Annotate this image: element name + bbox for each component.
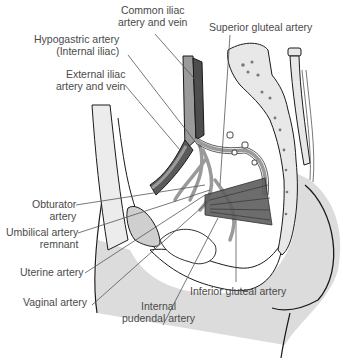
label-umbilical: Umbilical artery remnant xyxy=(6,226,78,250)
label-obturator: Obturator artery xyxy=(32,198,76,222)
label-uterine: Uterine artery xyxy=(20,266,84,278)
anterior-pelvic-wall xyxy=(92,105,128,250)
label-common-iliac: Common iliac artery and vein xyxy=(118,4,187,28)
label-hypogastric: Hypogastric artery (Internal iliac) xyxy=(34,33,119,57)
label-superior-gluteal: Superior gluteal artery xyxy=(209,21,312,33)
label-vaginal: Vaginal artery xyxy=(23,296,87,308)
nerve-roots xyxy=(227,132,257,165)
pubic-symphysis xyxy=(127,206,160,246)
label-inferior-gluteal: Inferior gluteal artery xyxy=(190,285,286,297)
label-external-iliac: External iliac artery and vein xyxy=(56,68,125,92)
label-internal-pudendal: Internal pudendal artery xyxy=(122,300,195,324)
